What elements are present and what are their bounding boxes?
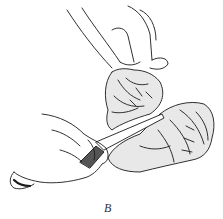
figure-caption: B	[104, 201, 111, 216]
upper-hand	[67, 6, 168, 69]
meat-cutting-illustration	[0, 0, 223, 219]
